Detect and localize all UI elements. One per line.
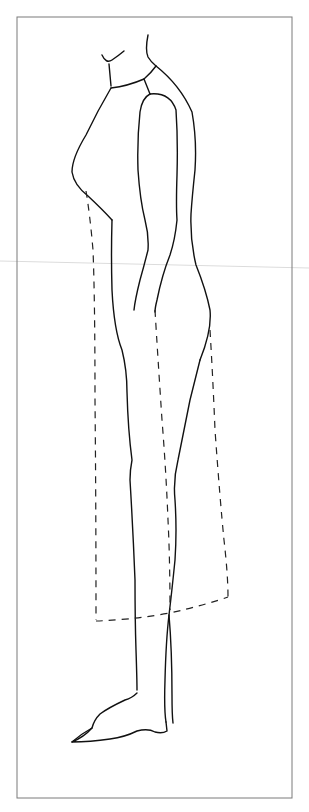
horizontal-guide <box>0 261 309 268</box>
frame <box>17 17 292 798</box>
body-silhouette <box>72 35 210 742</box>
dress-outline <box>86 191 228 621</box>
croquis-drawing: Side view fashion croquis with dashed sh… <box>0 0 309 812</box>
arm <box>134 94 177 312</box>
